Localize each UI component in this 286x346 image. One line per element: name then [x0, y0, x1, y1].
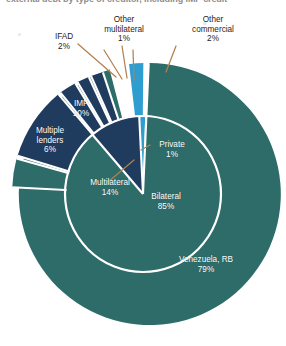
ring-label-venezuela-name: Venezuela, RB	[160, 255, 252, 265]
callout-other-commercial-name-2: commercial	[176, 25, 250, 35]
ring-label-venezuela-value: 79%	[160, 265, 252, 275]
leader-line-other-multilateral	[122, 46, 127, 78]
inner-label-multilateral-value: 14%	[78, 188, 142, 198]
ring-label-imf-name: IMF	[62, 99, 100, 109]
inner-label-private: Private 1%	[148, 140, 196, 159]
callout-ifad-value: 2%	[42, 42, 86, 52]
callout-ifad: IFAD 2%	[42, 32, 86, 51]
inner-label-multilateral: Multilateral 14%	[78, 178, 142, 197]
inner-label-private-value: 1%	[148, 150, 196, 160]
ring-label-multiple-lenders-value: 6%	[22, 145, 78, 155]
callout-other-multilateral-name-2: multilateral	[88, 25, 160, 35]
callout-other-commercial: Other commercial 2%	[176, 15, 250, 44]
inner-label-multilateral-name: Multilateral	[78, 178, 142, 188]
ring-label-multiple-lenders: Multiple lenders 6%	[22, 126, 78, 155]
pie-chart-figure: external debt by type of creditor, inclu…	[0, 0, 286, 346]
inner-label-bilateral-value: 85%	[140, 202, 192, 212]
callout-ifad-name: IFAD	[42, 32, 86, 42]
ring-label-imf-value: 10%	[62, 109, 100, 119]
ring-label-multiple-lenders-name-2: lenders	[22, 136, 78, 146]
inner-label-private-name: Private	[148, 140, 196, 150]
callout-other-multilateral: Other multilateral 1%	[88, 15, 160, 44]
ring-label-multiple-lenders-name-1: Multiple	[22, 126, 78, 136]
callout-other-multilateral-value: 1%	[88, 34, 160, 44]
ring-label-imf: IMF 10%	[62, 99, 100, 118]
callout-other-commercial-name-1: Other	[176, 15, 250, 25]
inner-label-bilateral: Bilateral 85%	[140, 192, 192, 211]
callout-other-commercial-value: 2%	[176, 34, 250, 44]
pie-chart-svg	[0, 0, 286, 346]
inner-label-bilateral-name: Bilateral	[140, 192, 192, 202]
callout-other-multilateral-name-1: Other	[88, 15, 160, 25]
ring-label-venezuela: Venezuela, RB 79%	[160, 255, 252, 274]
